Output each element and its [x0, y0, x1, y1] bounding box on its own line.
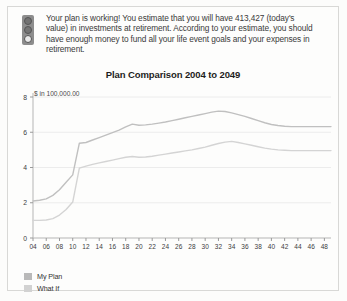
- chart-legend: My Plan What If: [24, 271, 62, 295]
- chart-title: Plan Comparison 2004 to 2049: [8, 69, 338, 80]
- legend-swatch-what-if: [24, 285, 32, 292]
- legend-label-what-if: What If: [37, 284, 59, 293]
- plan-comparison-screen: Your plan is working! You estimate that …: [0, 0, 347, 301]
- y-axis-unit-label: $ in 100,000.00: [34, 90, 79, 97]
- traffic-light-icon: [20, 15, 36, 45]
- plan-panel: Your plan is working! You estimate that …: [8, 7, 338, 290]
- legend-item-what-if[interactable]: What If: [24, 283, 62, 293]
- plan-status-message: Your plan is working! You estimate that …: [46, 13, 318, 55]
- legend-swatch-my-plan: [24, 273, 32, 280]
- legend-label-my-plan: My Plan: [37, 272, 62, 281]
- plan-status-alert: Your plan is working! You estimate that …: [14, 13, 332, 55]
- legend-item-my-plan[interactable]: My Plan: [24, 271, 62, 281]
